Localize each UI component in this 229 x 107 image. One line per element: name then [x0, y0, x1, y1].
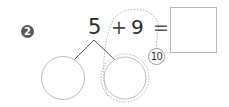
equals-sign: = [153, 18, 169, 37]
operand-b: 9 [131, 17, 144, 37]
math-worksheet-problem: 2 5 + 9 = 10 [0, 0, 229, 107]
plus-operator: + [111, 18, 127, 37]
operand-a: 5 [88, 17, 101, 38]
answer-box[interactable] [170, 7, 217, 53]
make-ten-hint-circle: 10 [148, 48, 165, 65]
branch-line-left [74, 40, 94, 60]
problem-number-badge: 2 [21, 25, 34, 38]
left-part-input[interactable] [42, 57, 85, 100]
right-part-input[interactable] [104, 57, 147, 100]
